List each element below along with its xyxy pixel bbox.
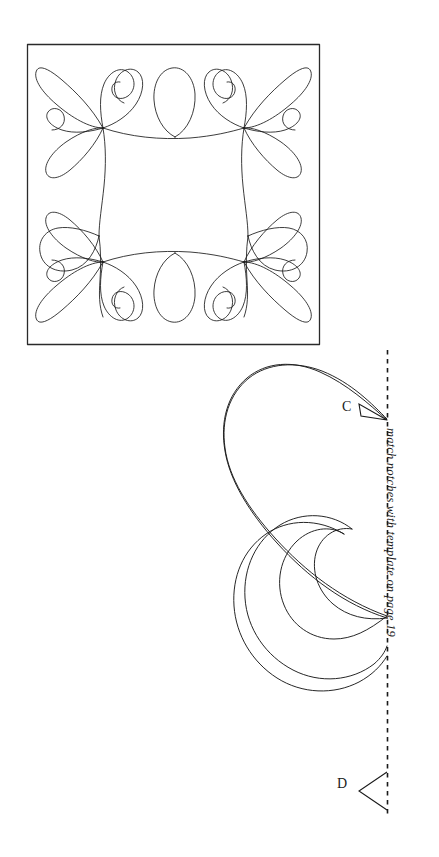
notch-d-mark — [359, 772, 387, 810]
notch-marks — [0, 0, 439, 857]
notch-c-mark — [359, 404, 387, 420]
fold-line-caption: match notches with template on page 19 — [383, 428, 398, 637]
page-canvas: C D match notches with template on page … — [0, 0, 439, 857]
notch-label-c: C — [342, 400, 351, 414]
notch-marks-svg — [0, 0, 439, 857]
notch-label-d: D — [337, 777, 347, 791]
